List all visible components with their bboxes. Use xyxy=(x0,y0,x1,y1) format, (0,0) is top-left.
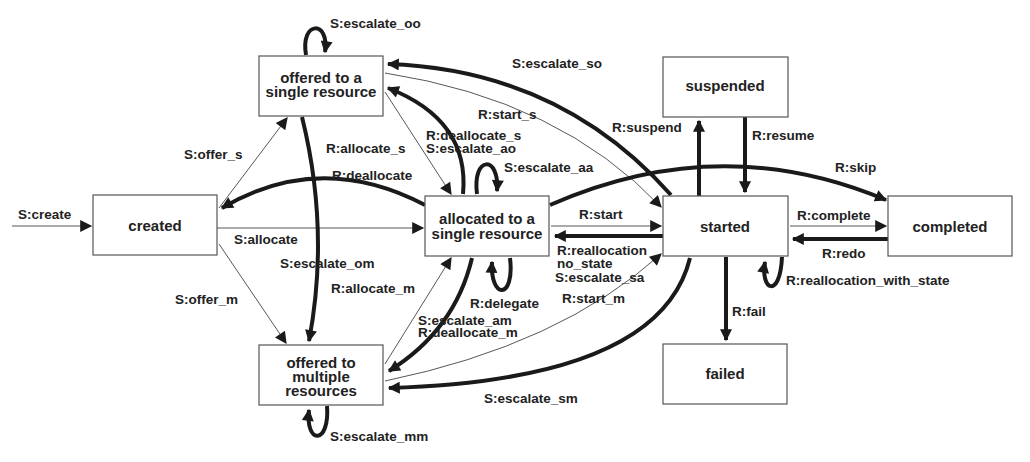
label-escalate-sm: S:escalate_sm xyxy=(484,391,578,406)
svg-text:completed: completed xyxy=(912,218,987,235)
label-escalate-ao: S:escalate_ao xyxy=(426,141,516,156)
state-failed: failed xyxy=(663,344,787,404)
label-allocate-m: R:allocate_m xyxy=(331,281,415,296)
svg-text:single resource: single resource xyxy=(432,225,543,242)
label-redo: R:redo xyxy=(822,246,866,261)
svg-text:started: started xyxy=(700,218,750,235)
label-escalate-oo: S:escalate_oo xyxy=(330,16,421,31)
label-escalate-om: S:escalate_om xyxy=(280,256,375,271)
label-reallocation-l2: no_state xyxy=(557,256,613,271)
label-start-s: R:start_s xyxy=(478,107,537,122)
state-offered-single: offered to a single resource xyxy=(259,56,383,116)
svg-text:suspended: suspended xyxy=(685,77,764,94)
label-resume: R:resume xyxy=(752,128,815,143)
label-suspend: R:suspend xyxy=(612,120,682,135)
label-allocate-s: R:allocate_s xyxy=(326,141,406,156)
state-created: created xyxy=(93,195,217,255)
label-escalate-sa: S:escalate_sa xyxy=(555,270,645,285)
label-deallocate: R:deallocate xyxy=(332,168,413,183)
label-fail: R:fail xyxy=(732,304,766,319)
label-offer-m: S:offer_m xyxy=(175,292,238,307)
label-complete: R:complete xyxy=(797,208,871,223)
svg-text:created: created xyxy=(128,217,181,234)
edge-escalate-om xyxy=(302,117,318,341)
label-escalate-aa: S:escalate_aa xyxy=(504,160,594,175)
edge-escalate-oo xyxy=(305,28,325,55)
edge-delegate xyxy=(492,258,511,290)
label-reallocation-with-state: R:reallocation_with_state xyxy=(786,273,950,288)
label-delegate: R:delegate xyxy=(470,296,540,311)
edge-reallocation-with-state xyxy=(764,257,782,286)
state-started: started xyxy=(663,196,788,256)
state-diagram: created offered to a single resource all… xyxy=(0,0,1030,462)
label-offer-s: S:offer_s xyxy=(184,147,243,162)
svg-text:resources: resources xyxy=(285,382,357,399)
edge-escalate-mm xyxy=(309,406,328,436)
label-deallocate-m: R:deallocate_m xyxy=(418,325,518,340)
label-escalate-mm: S:escalate_mm xyxy=(330,429,428,444)
label-skip: R:skip xyxy=(835,160,876,175)
label-create: S:create xyxy=(18,207,72,222)
state-offered-multiple: offered to multiple resources xyxy=(259,345,383,405)
state-completed: completed xyxy=(888,196,1012,256)
label-escalate-so: S:escalate_so xyxy=(512,56,602,71)
svg-text:single resource: single resource xyxy=(266,83,377,100)
edge-escalate-aa xyxy=(476,164,497,194)
label-start-m: R:start_m xyxy=(562,291,625,306)
state-suspended: suspended xyxy=(663,57,788,117)
label-allocate: S:allocate xyxy=(234,232,298,247)
state-allocated: allocated to a single resource xyxy=(425,196,549,256)
label-start: R:start xyxy=(579,207,623,222)
svg-text:failed: failed xyxy=(705,365,744,382)
